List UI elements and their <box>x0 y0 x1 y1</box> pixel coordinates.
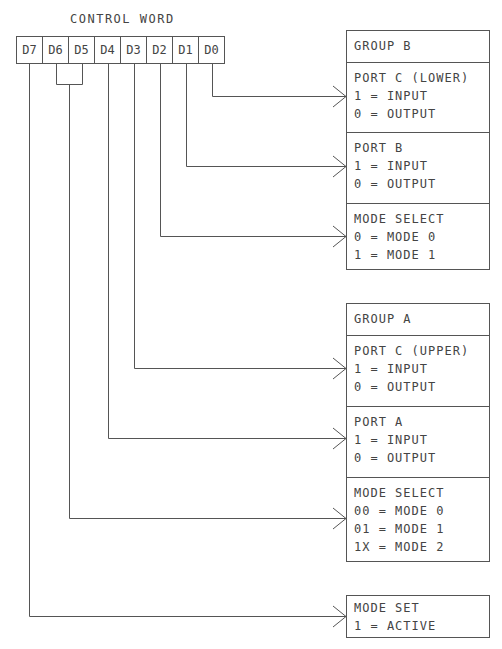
section-title: MODE SELECT <box>354 484 489 502</box>
group-b-mode-select-section: MODE SELECT 0 = MODE 0 1 = MODE 1 <box>347 203 489 269</box>
port-c-upper-section: PORT C (UPPER) 1 = INPUT 0 = OUTPUT <box>347 335 489 406</box>
wire-d3 <box>135 63 347 369</box>
group-b-header: GROUP B <box>347 31 489 62</box>
wire-d6-d5 <box>70 85 347 519</box>
wire-d7 <box>30 63 347 617</box>
group-a-mode-select-section: MODE SELECT 00 = MODE 0 01 = MODE 1 1X =… <box>347 477 489 561</box>
mode-set-box: MODE SET 1 = ACTIVE <box>346 595 490 638</box>
port-c-lower-section: PORT C (LOWER) 1 = INPUT 0 = OUTPUT <box>347 62 489 132</box>
section-title: PORT C (LOWER) <box>354 69 489 87</box>
group-a-box: GROUP A PORT C (UPPER) 1 = INPUT 0 = OUT… <box>346 303 490 562</box>
wire-d2 <box>161 63 347 237</box>
group-a-header: GROUP A <box>347 304 489 335</box>
mode-set-section: MODE SET 1 = ACTIVE <box>347 596 489 637</box>
section-title: PORT C (UPPER) <box>354 342 489 360</box>
wire-d1 <box>187 63 347 167</box>
bracket-d6-d5 <box>57 63 83 85</box>
port-b-section: PORT B 1 = INPUT 0 = OUTPUT <box>347 132 489 203</box>
section-title: PORT B <box>354 139 489 157</box>
wire-d0 <box>213 63 347 97</box>
section-title: PORT A <box>354 413 489 431</box>
section-title: MODE SET <box>354 599 489 617</box>
port-a-section: PORT A 1 = INPUT 0 = OUTPUT <box>347 406 489 477</box>
section-title: MODE SELECT <box>354 210 489 228</box>
group-b-box: GROUP B PORT C (LOWER) 1 = INPUT 0 = OUT… <box>346 30 490 270</box>
wire-d4 <box>109 63 347 439</box>
